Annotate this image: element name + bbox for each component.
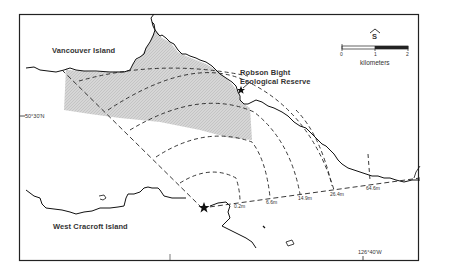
distance-label-5: 64.6m: [366, 185, 380, 191]
arc-1: [180, 172, 240, 202]
distance-label-1: 0.2m: [234, 203, 245, 209]
distance-label-2: 6.6m: [266, 199, 277, 205]
map-canvas: [0, 0, 452, 273]
arc-4b: [296, 110, 332, 186]
star-icon: [199, 202, 210, 212]
arc-2: [156, 136, 270, 197]
north-label: S: [372, 32, 377, 41]
scale-tick-2: 2: [406, 51, 409, 57]
scale-unit: kilometers: [360, 59, 390, 66]
latitude-label: 50°30'N: [25, 113, 44, 119]
longitude-label: 126°40'W: [358, 249, 382, 255]
label-west-cracroft: West Cracroft Island: [53, 222, 128, 231]
label-vancouver-island: Vancouver Island: [52, 46, 115, 55]
scale-bar: [342, 44, 408, 51]
label-robson-bight: Robson Bight: [240, 68, 290, 77]
west-cracroft-coastline: [26, 187, 186, 214]
scale-tick-1: 1: [374, 51, 377, 57]
label-ecological-reserve: Ecological Reserve: [240, 77, 311, 86]
arc-5b: [368, 154, 370, 180]
distance-label-3: 14.9m: [298, 195, 312, 201]
distance-label-4: 26.4m: [330, 191, 344, 197]
scale-tick-0: 0: [340, 51, 343, 57]
